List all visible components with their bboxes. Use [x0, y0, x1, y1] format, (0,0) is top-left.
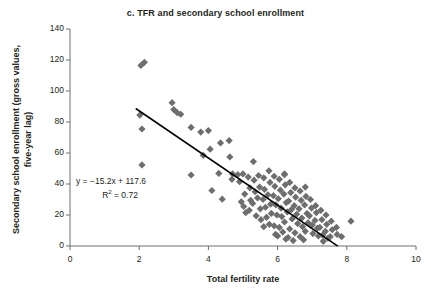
x-tick-label: 2 [119, 254, 159, 264]
data-point-marker [208, 187, 215, 194]
data-point-marker [286, 225, 293, 232]
data-point-marker [138, 161, 145, 168]
x-axis-ticks [70, 246, 416, 250]
data-point-marker [219, 196, 226, 203]
x-axis-title: Total fertility rate [70, 274, 416, 284]
data-point-marker [215, 170, 222, 177]
data-point-marker [250, 158, 257, 165]
y-tick-label: 140 [24, 23, 64, 33]
data-point-marker [217, 139, 224, 146]
y-tick-label: 0 [24, 240, 64, 250]
regression-r2: R2 = 0.72 [72, 187, 176, 201]
x-tick-label: 4 [188, 254, 228, 264]
data-point-marker [205, 127, 212, 134]
data-point-marker [250, 177, 257, 184]
data-point-marker [253, 212, 260, 219]
data-point-marker [322, 211, 329, 218]
x-tick-label: 6 [258, 254, 298, 264]
y-axis-title: Secondary school enrollment (gross value… [11, 40, 34, 240]
data-point-marker [291, 229, 298, 236]
data-point-marker [302, 184, 309, 191]
data-point-marker [268, 210, 275, 217]
data-point-marker [281, 171, 288, 178]
data-point-marker [347, 218, 354, 225]
data-point-marker [168, 99, 175, 106]
data-point-marker [266, 179, 273, 186]
regression-equation: y = −15.2x + 117.6 [72, 176, 176, 187]
data-point-marker [226, 153, 233, 160]
chart-figure: c. TFR and secondary school enrollment 0… [0, 0, 431, 299]
data-point-marker [318, 216, 325, 223]
data-point-marker [228, 176, 235, 183]
data-point-marker [254, 194, 261, 201]
x-tick-label: 8 [327, 254, 367, 264]
data-point-marker [287, 189, 294, 196]
data-point-markers [136, 59, 354, 245]
data-point-marker [271, 183, 278, 190]
data-point-marker [188, 171, 195, 178]
x-tick-label: 0 [50, 254, 90, 264]
y-axis-ticks [66, 29, 70, 246]
r2-value: = 0.72 [112, 190, 138, 200]
regression-annotation: y = −15.2x + 117.6 R2 = 0.72 [72, 176, 176, 201]
data-point-marker [265, 167, 272, 174]
data-point-marker [188, 124, 195, 131]
data-point-marker [207, 146, 214, 153]
data-point-marker [138, 125, 145, 132]
x-tick-label: 10 [396, 254, 431, 264]
data-point-marker [241, 190, 248, 197]
data-point-marker [197, 128, 204, 135]
data-point-marker [226, 137, 233, 144]
data-point-marker [257, 205, 264, 212]
